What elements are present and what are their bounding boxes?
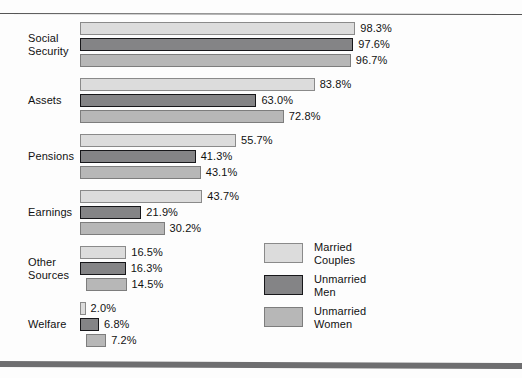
bar-social_security-series-2: [80, 54, 351, 67]
legend-label-unmarried-women: Unmarried Women: [314, 305, 366, 330]
bar-value-earnings-series-1: 21.9%: [146, 206, 178, 219]
bar-value-other_sources-series-1: 16.3%: [131, 262, 163, 275]
bar-assets-series-1: [80, 94, 256, 107]
bar-value-other_sources-series-0: 16.5%: [131, 246, 163, 259]
bar-social_security-series-1: [80, 38, 353, 51]
bar-earnings-series-1: [80, 206, 141, 219]
bar-value-assets-series-1: 63.0%: [261, 94, 293, 107]
bar-other_sources-series-1: [80, 262, 126, 275]
plot-area: Social Security98.3%97.6%96.7%Assets83.8…: [0, 0, 522, 378]
bar-value-assets-series-2: 72.8%: [289, 110, 321, 123]
bar-value-pensions-series-0: 55.7%: [241, 134, 273, 147]
category-label-social_security: Social Security: [28, 32, 80, 57]
bar-assets-series-0: [80, 78, 315, 91]
bar-value-earnings-series-2: 30.2%: [170, 222, 202, 235]
legend-swatch-unmarried-women: [264, 307, 303, 327]
category-label-welfare: Welfare: [28, 318, 80, 331]
bar-value-social_security-series-0: 98.3%: [360, 22, 392, 35]
bar-chart-figure: Social Security98.3%97.6%96.7%Assets83.8…: [0, 0, 522, 378]
bar-earnings-series-2: [80, 222, 165, 235]
legend-label-unmarried-men: Unmarried Men: [314, 273, 366, 298]
bar-pensions-series-1: [80, 150, 196, 163]
bar-assets-series-2: [80, 110, 284, 123]
legend-swatch-unmarried-men: [264, 275, 303, 295]
category-label-assets: Assets: [28, 94, 80, 107]
bar-social_security-series-0: [80, 22, 355, 35]
bar-value-welfare-series-2: 7.2%: [111, 334, 136, 347]
bar-welfare-series-2: [86, 334, 106, 347]
bar-value-social_security-series-1: 97.6%: [358, 38, 390, 51]
bar-value-other_sources-series-2: 14.5%: [132, 278, 164, 291]
bar-welfare-series-0: [80, 302, 86, 315]
bar-value-welfare-series-0: 2.0%: [91, 302, 116, 315]
bar-pensions-series-0: [80, 134, 236, 147]
category-label-pensions: Pensions: [28, 150, 80, 163]
bar-other_sources-series-0: [80, 246, 126, 259]
legend-swatch-married-couples: [264, 243, 303, 263]
bar-value-pensions-series-2: 43.1%: [206, 166, 238, 179]
bar-earnings-series-0: [80, 190, 202, 203]
legend-label-married-couples: Married Couples: [314, 241, 355, 266]
bar-value-welfare-series-1: 6.8%: [104, 318, 129, 331]
bar-value-assets-series-0: 83.8%: [320, 78, 352, 91]
bar-value-earnings-series-0: 43.7%: [207, 190, 239, 203]
category-label-other_sources: Other Sources: [28, 256, 80, 281]
bar-value-pensions-series-1: 41.3%: [201, 150, 233, 163]
bar-value-social_security-series-2: 96.7%: [356, 54, 388, 67]
bar-other_sources-series-2: [86, 278, 127, 291]
bar-pensions-series-2: [80, 166, 201, 179]
category-label-earnings: Earnings: [28, 206, 80, 219]
bar-welfare-series-1: [80, 318, 99, 331]
